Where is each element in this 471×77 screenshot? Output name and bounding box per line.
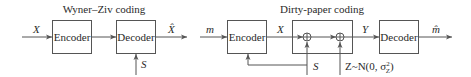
dirty-paper-diagram: Dirty-paper coding m Encoder X Y Decoder… (200, 3, 452, 75)
diagram-canvas: Wyner–Ziv coding X Encoder Decoder X̂ S … (0, 0, 471, 77)
wz-side-info-label: S (141, 58, 147, 70)
noise-text: Z~N(0, σ (345, 60, 386, 73)
dirty-paper-title: Dirty-paper coding (280, 3, 364, 15)
dp-output-label: m̂ (432, 23, 440, 35)
dp-channel-output-label: Y (362, 23, 370, 35)
wz-output-label: X̂ (167, 23, 176, 35)
wyner-ziv-diagram: Wyner–Ziv coding X Encoder Decoder X̂ S (22, 3, 187, 75)
dp-state-feedback-arrow (248, 54, 307, 65)
dp-channel-input-label: X (276, 23, 285, 35)
dp-decoder-label: Decoder (380, 31, 418, 43)
dp-noise-label: Z~N(0, σ2Z) (345, 60, 394, 75)
wz-encoder-label: Encoder (54, 31, 91, 43)
dp-encoder-label: Encoder (229, 31, 266, 43)
noise-close: ) (390, 60, 394, 73)
dp-input-label: m (206, 23, 214, 35)
dp-state-label: S (313, 60, 319, 72)
wz-input-label: X (32, 23, 41, 35)
wyner-ziv-title: Wyner–Ziv coding (63, 3, 146, 15)
wz-decoder-label: Decoder (117, 31, 155, 43)
